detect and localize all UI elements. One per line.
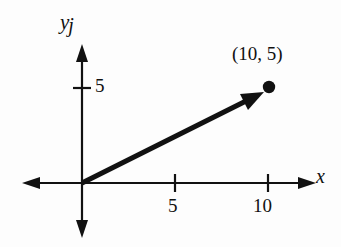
y-tick-label-5: 5 bbox=[95, 76, 105, 95]
vector-plot-figure: yj x 5 5 10 (10, 5) bbox=[0, 0, 341, 247]
y-axis-label: yj bbox=[60, 12, 75, 33]
y-axis-label-subscript: j bbox=[68, 14, 74, 36]
endpoint-coordinate-label: (10, 5) bbox=[232, 44, 283, 63]
endpoint-dot bbox=[263, 81, 275, 93]
x-axis-label: x bbox=[316, 166, 325, 186]
x-tick-label-5: 5 bbox=[168, 196, 178, 215]
x-tick-label-10: 10 bbox=[253, 196, 272, 215]
